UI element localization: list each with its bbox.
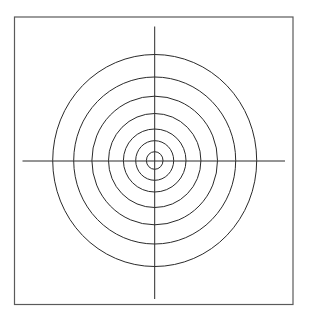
target-diagram <box>0 0 309 321</box>
